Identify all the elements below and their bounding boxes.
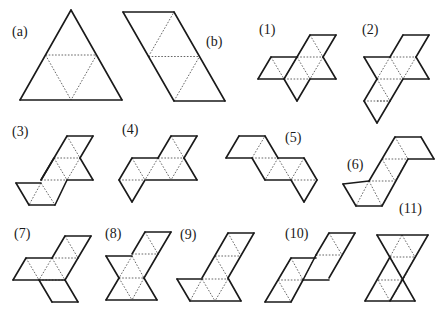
fold-line: [377, 79, 390, 101]
solid-edge: [323, 35, 336, 57]
solid-edge: [158, 136, 171, 158]
figure-label-6: (6): [347, 158, 363, 172]
solid-edge: [202, 233, 228, 278]
fold-line: [395, 137, 408, 159]
solid-edge: [158, 232, 171, 254]
fold-line: [26, 258, 39, 280]
fold-line: [329, 233, 342, 255]
fold-line: [67, 136, 80, 158]
figure-3: [16, 136, 93, 205]
figure-label-8: (8): [105, 227, 121, 241]
fold-line: [46, 55, 72, 100]
solid-edge: [369, 137, 395, 181]
fold-line: [29, 183, 41, 205]
solid-edge: [39, 280, 52, 302]
fold-line: [390, 57, 403, 79]
figure-label-b: (b): [206, 35, 222, 49]
solid-edge: [291, 280, 303, 302]
figure-b: [123, 12, 225, 101]
fold-line: [390, 235, 402, 257]
figure-11: [365, 235, 428, 301]
fold-line: [54, 158, 67, 180]
solid-edge: [403, 280, 415, 301]
solid-edge: [304, 180, 317, 202]
solid-edge: [390, 79, 403, 101]
fold-line: [119, 278, 132, 300]
solid-edge: [364, 79, 377, 101]
solid-edge: [106, 256, 119, 278]
solid-edge: [284, 79, 297, 101]
fold-line: [252, 136, 265, 158]
solid-edge: [41, 158, 54, 180]
fold-line: [402, 235, 415, 257]
solid-edge: [177, 279, 190, 301]
figure-8: [106, 232, 171, 300]
solid-edge: [258, 57, 271, 79]
solid-edge: [364, 57, 377, 79]
figure-1: [258, 35, 336, 101]
solid-edge: [416, 57, 429, 79]
fold-line: [382, 159, 395, 181]
figure-10: [265, 233, 355, 302]
solid-edge: [65, 280, 78, 302]
figure-label-1: (1): [259, 23, 275, 37]
fold-line: [265, 158, 278, 180]
solid-edge: [16, 183, 29, 205]
figure-label-9: (9): [180, 228, 196, 242]
figure-label-2: (2): [362, 23, 378, 37]
fold-line: [297, 57, 310, 79]
fold-line: [403, 57, 416, 79]
solid-edge: [416, 35, 429, 57]
fold-line: [145, 158, 158, 180]
fold-line: [71, 55, 97, 100]
figure-label-a: (a): [12, 25, 28, 39]
fold-line: [158, 158, 171, 180]
solid-edge: [364, 101, 377, 123]
solid-edge: [119, 180, 132, 202]
solid-edge: [55, 180, 67, 205]
figure-7: [13, 236, 91, 302]
figure-label-11: (11): [399, 202, 422, 216]
fold-line: [52, 258, 65, 280]
solid-edge: [343, 184, 356, 206]
solid-edge: [316, 233, 329, 255]
fold-line: [356, 181, 369, 206]
fold-line: [132, 256, 144, 278]
solid-edge: [144, 278, 157, 300]
fold-line: [310, 57, 323, 79]
solid-edge: [226, 136, 239, 158]
solid-edge: [144, 254, 158, 278]
solid-edge: [13, 258, 26, 280]
fold-line: [174, 57, 200, 102]
figure-label-4: (4): [122, 123, 138, 137]
figure-5: [226, 136, 317, 202]
solid-edge: [119, 158, 132, 180]
fold-line: [291, 258, 303, 280]
figure-label-3: (3): [12, 125, 28, 139]
solid-edge: [80, 158, 93, 180]
solid-edge: [52, 236, 65, 258]
solid-edge: [265, 136, 278, 158]
fold-line: [171, 136, 184, 158]
fold-line: [369, 181, 382, 206]
solid-edge: [265, 258, 291, 302]
fold-line: [271, 57, 284, 79]
fold-line: [132, 278, 144, 300]
solid-edge: [184, 158, 197, 180]
solid-edge: [65, 258, 78, 280]
solid-edge: [390, 35, 403, 57]
solid-edge: [304, 158, 317, 180]
solid-edge: [78, 236, 91, 258]
solid-edge: [377, 101, 390, 123]
fold-line: [215, 256, 228, 278]
solid-edge: [297, 79, 310, 101]
solid-edge: [252, 158, 265, 180]
solid-edge: [291, 180, 304, 202]
figure-label-7: (7): [14, 227, 30, 241]
fold-line: [41, 183, 55, 205]
solid-edge: [80, 136, 93, 158]
figure-2: [364, 35, 429, 123]
fold-line: [171, 158, 184, 180]
solid-edge: [132, 180, 145, 202]
fold-line: [145, 232, 158, 254]
